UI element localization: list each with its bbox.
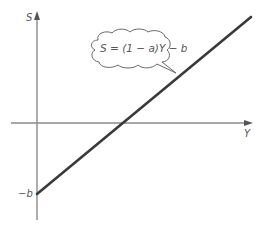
y-axis-label: S xyxy=(26,12,33,23)
saving-function-diagram: S Y −b S = (1 − a)Y − b xyxy=(0,0,266,233)
y-axis-arrow-icon xyxy=(34,11,40,20)
equation-text: S = (1 − a)Y − b xyxy=(100,42,188,54)
intercept-label: −b xyxy=(18,188,33,199)
equation-bubble: S = (1 − a)Y − b xyxy=(91,29,187,73)
x-axis-label: Y xyxy=(244,128,251,139)
x-axis-arrow-icon xyxy=(244,120,253,126)
x-axis xyxy=(11,120,253,126)
y-axis xyxy=(34,11,40,220)
